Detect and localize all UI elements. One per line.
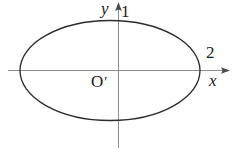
origin-prime-mark: ′: [103, 74, 106, 90]
coordinate-plane-graphic: [0, 0, 234, 156]
origin-label: O′: [91, 73, 107, 90]
y-intercept-label: 1: [121, 3, 130, 20]
origin-letter: O: [91, 72, 103, 91]
math-figure: y 1 2 x O′: [0, 0, 234, 156]
x-axis-label: x: [209, 72, 217, 89]
x-intercept-label: 2: [206, 44, 215, 61]
y-axis-label: y: [101, 0, 109, 17]
